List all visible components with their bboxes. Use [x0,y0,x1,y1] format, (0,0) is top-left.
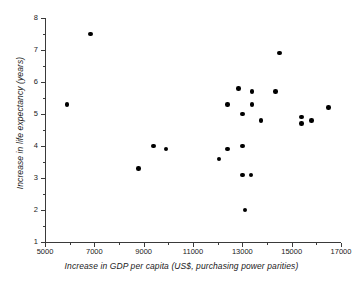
data-point [225,147,230,152]
y-tick-label: 1 [8,238,38,246]
y-tick-major [41,114,45,115]
plot-area [45,18,341,242]
data-point [240,173,245,178]
data-point [151,144,156,149]
data-point [240,144,245,149]
data-point [88,32,93,37]
x-tick-minor [267,243,268,245]
x-tick-minor [70,243,71,245]
y-tick-major [41,146,45,147]
data-point [164,147,169,152]
x-tick-label: 7000 [74,247,114,256]
data-point [326,105,331,110]
y-tick-major [41,178,45,179]
data-point [225,102,230,107]
data-point [277,51,282,56]
y-axis-line [45,18,46,242]
y-tick-minor [43,194,45,195]
y-axis-title: Increase in life expectancy (years) [15,18,25,228]
x-tick-label: 5000 [25,247,65,256]
data-point [249,173,254,178]
data-point [299,121,304,126]
x-tick-label: 11000 [173,247,213,256]
x-tick-minor [168,243,169,245]
y-tick-minor [43,34,45,35]
x-tick-label: 17000 [321,247,361,256]
data-point [136,166,141,171]
x-tick-minor [316,243,317,245]
data-point [243,208,248,213]
data-point [259,118,264,123]
data-point [250,89,255,94]
data-point [217,157,222,162]
y-tick-major [41,82,45,83]
data-point [240,112,245,117]
y-tick-major [41,50,45,51]
y-tick-minor [43,226,45,227]
x-tick-label: 13000 [222,247,262,256]
scatter-chart: 12345678 5000700090001100013000150001700… [0,0,363,284]
x-tick-label: 15000 [272,247,312,256]
data-point [250,102,255,107]
x-axis-tick-labels: 50007000900011000130001500017000 [45,247,341,259]
x-tick-minor [218,243,219,245]
data-point [299,115,304,120]
x-tick-label: 9000 [124,247,164,256]
data-point [236,86,241,91]
y-tick-minor [43,98,45,99]
y-tick-minor [43,66,45,67]
y-tick-minor [43,130,45,131]
x-axis-title: Increase in GDP per capita (US$, purchas… [0,261,363,271]
y-tick-major [41,210,45,211]
x-tick-minor [119,243,120,245]
data-point [273,89,278,94]
data-point [65,102,70,107]
y-tick-major [41,18,45,19]
data-point [309,118,314,123]
y-tick-minor [43,162,45,163]
